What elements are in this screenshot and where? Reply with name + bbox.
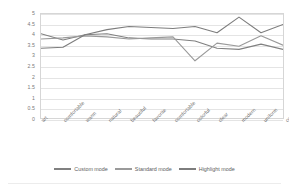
y-axis-tick-label: 5	[32, 10, 35, 16]
y-axis-tick-label: 2	[32, 74, 35, 80]
x-axis: artcomfortablewarmnaturalbeautifulfavori…	[40, 119, 284, 165]
y-axis-tick-label: 3	[32, 52, 35, 58]
series-line	[41, 17, 283, 48]
legend-line-icon	[115, 168, 132, 169]
y-axis: 00.511.522.533.544.55	[0, 13, 38, 119]
legend-label: Custom mode	[74, 166, 108, 172]
legend-item[interactable]: Standard mode	[115, 166, 172, 172]
legend-item[interactable]: Highlight mode	[179, 166, 235, 172]
y-axis-tick-label: 0	[32, 116, 35, 122]
legend-item[interactable]: Custom mode	[54, 166, 108, 172]
y-axis-tick-label: 0.5	[27, 105, 35, 111]
x-axis-tick-label: comfortable	[284, 100, 289, 123]
legend-label: Standard mode	[135, 166, 172, 172]
chart-legend: Custom modeStandard modeHighlight mode	[0, 166, 289, 172]
legend-line-icon	[54, 168, 71, 169]
legend-divider	[8, 183, 281, 184]
y-axis-tick-label: 1	[32, 95, 35, 101]
y-axis-tick-label: 3.5	[27, 42, 35, 48]
y-axis-tick-label: 4	[32, 31, 35, 37]
y-axis-tick-label: 1.5	[27, 84, 35, 90]
legend-label: Highlight mode	[199, 166, 235, 172]
y-axis-tick-label: 4.5	[27, 21, 35, 27]
line-chart: 00.511.522.533.544.55 artcomfortablewarm…	[0, 0, 289, 189]
y-axis-tick-label: 2.5	[27, 63, 35, 69]
legend-line-icon	[179, 168, 196, 169]
